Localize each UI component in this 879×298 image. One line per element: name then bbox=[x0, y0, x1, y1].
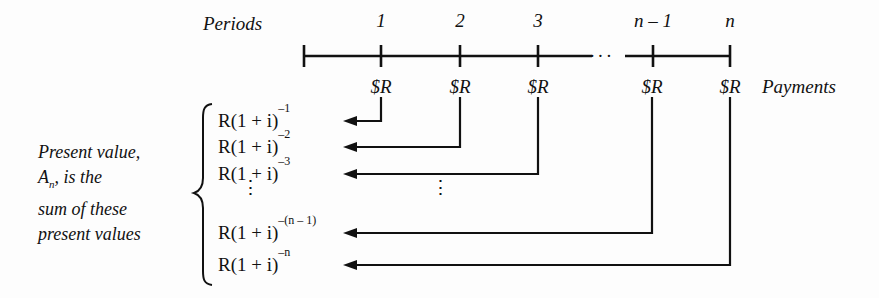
arrow-period-n-minus-1 bbox=[349, 97, 652, 233]
tick-label-n-minus-1: n – 1 bbox=[622, 10, 684, 32]
tick-label-n: n bbox=[720, 10, 740, 32]
payment-label-3: $R bbox=[520, 76, 556, 98]
payment-label-2: $R bbox=[442, 76, 478, 98]
formula-base-n-minus-1: R(1 + i) bbox=[218, 222, 278, 243]
payment-label-n: $R bbox=[712, 76, 748, 98]
formula-column-vertical-ellipsis: ⋮ bbox=[238, 185, 262, 191]
present-value-description: Present value, An, is the sum of these p… bbox=[38, 140, 198, 247]
tick-label-3: 3 bbox=[528, 10, 548, 32]
formula-exponent-2: –2 bbox=[278, 127, 290, 141]
arrowheads bbox=[343, 116, 357, 270]
payment-label-n-minus-1: $R bbox=[634, 76, 670, 98]
payment-arrows bbox=[349, 97, 730, 265]
periods-label: Periods bbox=[203, 13, 262, 35]
formula-exponent-3: –3 bbox=[278, 154, 290, 168]
arrow-period-3 bbox=[349, 97, 538, 174]
annuity-symbol-A: A bbox=[38, 167, 49, 187]
description-line-4: present values bbox=[38, 222, 198, 247]
payment-label-1: $R bbox=[363, 76, 399, 98]
formula-row-n: R(1 + i)–n bbox=[218, 253, 290, 276]
tick-label-1: 1 bbox=[371, 10, 391, 32]
formula-base-2: R(1 + i) bbox=[218, 136, 278, 157]
formula-base-1: R(1 + i) bbox=[218, 110, 278, 131]
timeline-axis bbox=[303, 45, 731, 67]
tick-label-2: 2 bbox=[450, 10, 470, 32]
timeline-gap-ellipsis: ··· bbox=[589, 45, 614, 67]
formula-row-n-minus-1: R(1 + i)–(n – 1) bbox=[218, 221, 316, 244]
formula-base-n: R(1 + i) bbox=[218, 254, 278, 275]
formula-exponent-n-minus-1: –(n – 1) bbox=[278, 213, 316, 227]
arrow-area-vertical-ellipsis: ⋮ bbox=[428, 185, 452, 191]
description-line-1: Present value, bbox=[38, 140, 198, 165]
description-line-2: An, is the bbox=[38, 165, 198, 197]
formula-exponent-1: –1 bbox=[278, 101, 290, 115]
formula-exponent-n: –n bbox=[278, 245, 290, 259]
payments-label: Payments bbox=[762, 76, 836, 98]
arrow-period-n bbox=[349, 97, 730, 265]
description-line-2-rest: , is the bbox=[55, 167, 103, 187]
description-line-3: sum of these bbox=[38, 197, 198, 222]
